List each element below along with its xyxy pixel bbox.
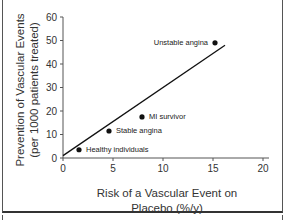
y-tick-label: 50 <box>46 35 58 46</box>
y-axis-title-line1: Prevention of Vascular Events <box>14 13 26 166</box>
x-axis-title-line2: Placebo (%/y) <box>131 202 203 214</box>
y-tick-label: 40 <box>46 59 58 70</box>
data-point-label: Unstable angina <box>154 38 209 47</box>
data-point <box>139 114 144 119</box>
data-point <box>76 147 81 152</box>
data-point <box>212 40 217 45</box>
y-tick-label: 0 <box>51 153 57 164</box>
y-tick-label: 60 <box>46 12 58 23</box>
data-point <box>106 128 111 133</box>
x-tick-label: 0 <box>60 163 66 174</box>
data-point-label: MI survivor <box>149 112 186 121</box>
scatter-chart: 010203040506005101520Risk of a Vascular … <box>0 0 285 220</box>
x-tick-label: 15 <box>207 163 219 174</box>
trend-line <box>63 45 225 155</box>
y-tick-label: 20 <box>46 106 58 117</box>
x-axis-title-line1: Risk of a Vascular Event on <box>97 187 237 199</box>
y-tick-label: 10 <box>46 129 58 140</box>
y-axis-title-line2: (per 1000 patients treated) <box>28 22 40 158</box>
data-point-label: Stable angina <box>116 126 163 135</box>
x-tick-label: 20 <box>257 163 269 174</box>
data-point-label: Healthy individuals <box>86 145 149 154</box>
y-tick-label: 30 <box>46 82 58 93</box>
x-tick-label: 10 <box>157 163 169 174</box>
x-tick-label: 5 <box>110 163 116 174</box>
